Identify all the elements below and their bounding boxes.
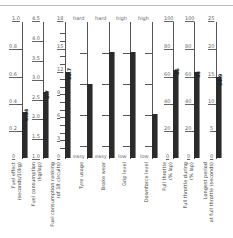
tick-label: 0: [166, 153, 169, 159]
tick-label: 3.5: [32, 55, 40, 61]
gauge-fuel-effect: 1.0 0.8 0.6 0.4 0.2 0 0.34 Fuel effect(s…: [0, 0, 22, 238]
tick-label: 12: [57, 66, 63, 72]
bottom-label: easy: [73, 153, 85, 159]
tick-label: 0.8: [9, 43, 17, 49]
top-label: hard: [73, 15, 84, 21]
gauge-title: Full throttle during(% lap): [182, 162, 194, 208]
gauge-title: Fuel consumption(kg/lap): [30, 162, 42, 206]
tick-label: 3: [57, 135, 60, 141]
tick-label: 2.0: [32, 113, 40, 119]
tick: [123, 84, 130, 85]
tick-label: 10: [208, 98, 214, 104]
tick-label: 0.4: [9, 98, 17, 104]
tick-label: 0: [187, 153, 190, 159]
tick-label: 9: [57, 89, 60, 95]
tick-label: 2.5: [32, 94, 40, 100]
gauge-title: Tyre usage: [78, 162, 84, 189]
tick-label: 1.0: [12, 15, 20, 21]
gauge-title: Downforce level: [143, 162, 149, 202]
tick-label: 20: [208, 43, 214, 49]
tick-label: 80: [164, 43, 170, 49]
tick-label: 80: [185, 43, 191, 49]
tick-label: 20: [164, 125, 170, 131]
tick-label: 4.0: [32, 35, 40, 41]
gauge-longest-full-throttle: 25 20 15 10 5 0 14.9 Longest periodat fu…: [194, 0, 216, 238]
gauge-fuel-consumption: 4.5 4.0 3.5 3.0 2.5 2.0 1.5 1.0 2.7 Fuel…: [22, 0, 44, 238]
tick-label: 60: [164, 71, 170, 77]
tick: [80, 115, 87, 116]
tick: [80, 146, 87, 147]
tick-label: 40: [164, 98, 170, 104]
tick-label: 1.5: [32, 133, 40, 139]
tick-label: 15: [208, 71, 214, 77]
tick-label: 20: [185, 125, 191, 131]
gauge-title: Grip level: [121, 162, 127, 186]
gauge-title: Fuel effect(seconds/10kg): [10, 162, 22, 200]
tick-label: 0: [210, 153, 213, 159]
tick: [80, 53, 87, 54]
gauge-full-throttle-during: 100 80 60 40 20 0 63 Full throttle durin…: [173, 0, 195, 238]
tick-label: 0: [12, 153, 15, 159]
tick-label: 1.0: [32, 153, 40, 159]
bottom-label: low: [140, 153, 149, 159]
tick: [123, 53, 130, 54]
tick: [210, 49, 216, 50]
bottom-label: low: [118, 153, 127, 159]
top-label: hard: [95, 15, 106, 21]
tick: [123, 115, 130, 116]
tick-label: 15: [57, 43, 63, 49]
tick-label: 0.2: [9, 125, 17, 131]
bottom-label: easy: [95, 153, 107, 159]
value-bar: [216, 77, 221, 158]
top-label: high: [138, 15, 149, 21]
tick-label: 18: [57, 15, 63, 21]
gauge-full-throttle: 100 80 60 40 20 0 65 Full throttle(% lap…: [151, 0, 173, 238]
tick: [123, 146, 130, 147]
tick-label: 25: [208, 15, 214, 21]
tick-label: 3.0: [32, 74, 40, 80]
gauge-title: Fuel consumption ranking(of 18 circuits): [49, 162, 61, 227]
gauge-title: Longest periodat full throttle (seconds): [202, 162, 214, 222]
gauge-title: Brake wear: [100, 162, 106, 190]
tick-label: 0.6: [9, 71, 17, 77]
gauge-title: Full throttle(% lap): [161, 162, 173, 191]
gauge-grip-level: high low Grip level: [108, 0, 130, 238]
tick-label: 4.5: [32, 15, 40, 21]
gauge-downforce-level: high low Downforce level: [130, 0, 152, 238]
tick-label: 60: [185, 71, 191, 77]
value-label: 14.9: [217, 74, 223, 86]
tick-label: 0: [57, 153, 60, 159]
gauge-fuel-ranking: 18 15 12 9 6 3 0 12.7 Fuel consumption r…: [43, 0, 65, 238]
gauge-brake-wear: hard easy Brake wear: [87, 0, 109, 238]
tick-label: 40: [185, 98, 191, 104]
gauge-tyre-usage: hard easy Tyre usage: [65, 0, 87, 238]
tick: [80, 84, 87, 85]
tick-label: 6: [57, 112, 60, 118]
tick-label: 5: [210, 125, 213, 131]
top-label: high: [116, 15, 127, 21]
